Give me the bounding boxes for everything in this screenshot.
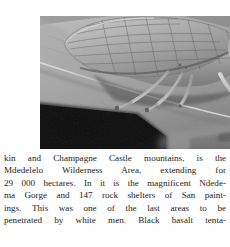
word: Castle	[109, 153, 132, 163]
word: tenta-	[205, 215, 226, 225]
word: Area,	[121, 165, 141, 175]
word: This	[32, 203, 48, 213]
word: the	[125, 203, 136, 213]
word: last	[147, 203, 160, 213]
word: by	[54, 215, 63, 225]
photo-grain	[40, 16, 230, 149]
text-line-3: 29 000 hectares. In it is the magnificen…	[4, 177, 226, 189]
word: of	[165, 190, 173, 200]
word: and	[56, 190, 69, 200]
word: men.	[108, 215, 126, 225]
word: ma	[4, 190, 15, 200]
word: rock	[102, 190, 118, 200]
word: extending	[160, 165, 196, 175]
word: it	[100, 178, 105, 188]
word: for	[215, 165, 226, 175]
text-line-4: ma Gorge and 147 rock shelters of San pa…	[4, 189, 226, 201]
text-line-1: kin and Champagne Castle mountains, is t…	[4, 152, 226, 164]
word: mountains,	[144, 153, 184, 163]
word: magnificent	[147, 178, 191, 188]
text-line-2: Mdedelelo Wilderness Area, extending for	[4, 164, 226, 176]
word: ings.	[4, 203, 22, 213]
word: In	[84, 178, 92, 188]
body-paragraph: kin and Champagne Castle mountains, is t…	[4, 152, 226, 227]
word: of	[107, 203, 115, 213]
text-line-5: ings. This was one of the last areas to …	[4, 202, 226, 214]
word: white	[76, 215, 96, 225]
word: be	[217, 203, 226, 213]
word: was	[59, 203, 73, 213]
book-page: kin and Champagne Castle mountains, is t…	[0, 0, 230, 247]
text-line-6: penetrated by white men. Black basalt te…	[4, 214, 226, 226]
word: Wilderness	[62, 165, 103, 175]
word: 147	[79, 190, 93, 200]
word: and	[28, 153, 41, 163]
word: areas	[170, 203, 189, 213]
word: 29 000	[4, 178, 35, 188]
word: basalt	[172, 215, 193, 225]
cicada-photograph	[40, 16, 230, 149]
word: shelters	[127, 190, 155, 200]
word: to	[200, 203, 207, 213]
word: San	[182, 190, 196, 200]
word: hectares.	[43, 178, 75, 188]
word: the	[215, 153, 226, 163]
word: the	[128, 178, 139, 188]
word: paint-	[205, 190, 226, 200]
word: is	[113, 178, 119, 188]
word: Champagne	[53, 153, 97, 163]
word: is	[197, 153, 203, 163]
word: Ndede-	[199, 178, 226, 188]
word: kin	[4, 153, 16, 163]
word: penetrated	[4, 215, 42, 225]
word: Gorge	[24, 190, 47, 200]
word: one	[83, 203, 96, 213]
photograph-canvas	[40, 16, 230, 149]
word: Mdedelelo	[4, 165, 43, 175]
word: Black	[138, 215, 159, 225]
